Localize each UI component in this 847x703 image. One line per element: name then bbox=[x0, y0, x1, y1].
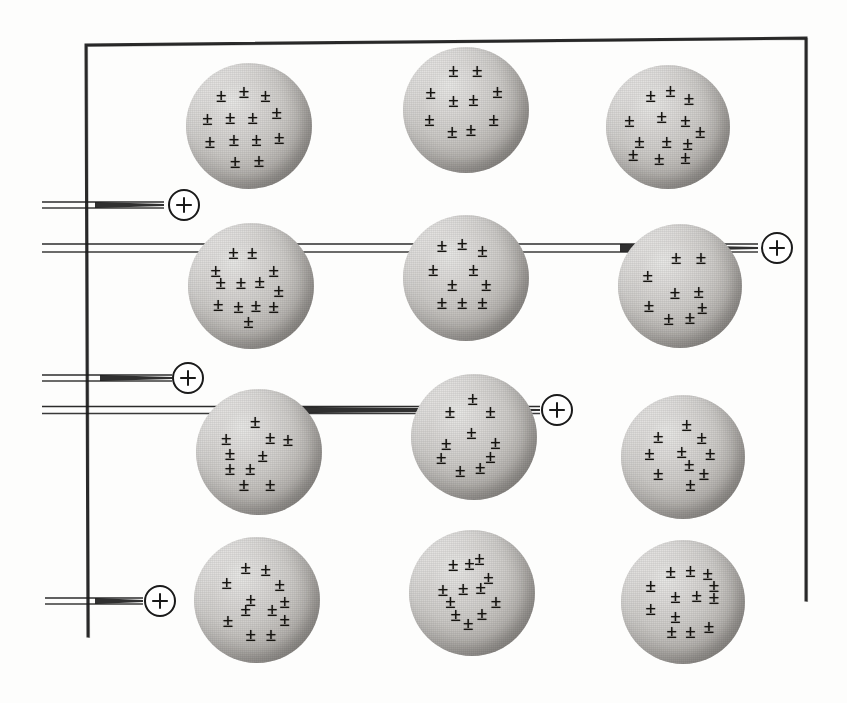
charge-symbol: ± bbox=[665, 562, 675, 581]
alpha-particle-marker: + bbox=[145, 586, 175, 616]
charge-symbol: ± bbox=[243, 312, 253, 331]
charge-symbol: ± bbox=[653, 464, 663, 483]
charge-symbol: ± bbox=[685, 560, 695, 579]
atom-sphere: ±±±±±±±±±±±±± bbox=[606, 65, 730, 189]
charge-symbol: ± bbox=[468, 388, 478, 407]
charge-symbol: ± bbox=[468, 260, 478, 279]
charge-symbol: ± bbox=[654, 149, 664, 168]
charge-symbol: ± bbox=[474, 548, 484, 567]
atom-sphere: ±±±±±±±±±± bbox=[411, 374, 537, 500]
charge-symbol: ± bbox=[225, 108, 235, 127]
charge-symbol: ± bbox=[268, 260, 278, 279]
charge-symbol: ± bbox=[477, 292, 487, 311]
alpha-particle-marker: + bbox=[762, 233, 792, 263]
charge-symbol: ± bbox=[685, 308, 695, 327]
charge-symbol: ± bbox=[457, 233, 467, 252]
charge-symbol: ± bbox=[229, 129, 239, 148]
charge-symbol: ± bbox=[428, 260, 438, 279]
charge-symbol: ± bbox=[448, 555, 458, 574]
charge-symbol: ± bbox=[667, 621, 677, 640]
charge-symbol: ± bbox=[260, 85, 270, 104]
charge-symbol: ± bbox=[245, 625, 255, 644]
charge-symbol: ± bbox=[705, 444, 715, 463]
charge-symbol: ± bbox=[447, 275, 457, 294]
charge-symbol: ± bbox=[254, 151, 264, 170]
charge-symbol: ± bbox=[475, 458, 485, 477]
figure-root: ±±±±±±±±±±±±±±±±±±±±±±±±±±±±±±±±±±±±±±±±… bbox=[0, 0, 847, 703]
atom-sphere: ±±±±±±±±±±±± bbox=[194, 537, 320, 663]
alpha-particle-track-5 bbox=[45, 598, 143, 604]
charge-symbol: ± bbox=[437, 292, 447, 311]
charge-symbol: ± bbox=[455, 460, 465, 479]
charge-symbol: ± bbox=[464, 553, 474, 572]
charge-symbol: ± bbox=[624, 110, 634, 129]
charge-symbol: ± bbox=[240, 558, 250, 577]
charge-symbol: ± bbox=[704, 616, 714, 635]
charge-symbol: ± bbox=[485, 401, 495, 420]
charge-symbol: ± bbox=[697, 298, 707, 317]
charge-symbol: ± bbox=[445, 401, 455, 420]
charge-symbol: ± bbox=[450, 605, 460, 624]
charge-symbol: ± bbox=[458, 578, 468, 597]
charge-symbol: ± bbox=[205, 132, 215, 151]
charge-symbol: ± bbox=[272, 103, 282, 122]
charge-symbol: ± bbox=[280, 609, 290, 628]
charge-symbol: ± bbox=[489, 109, 499, 128]
charge-symbol: ± bbox=[682, 414, 692, 433]
charge-symbol: ± bbox=[468, 89, 478, 108]
charge-symbol: ± bbox=[255, 271, 265, 290]
charge-symbol: ± bbox=[680, 147, 690, 166]
charge-symbol: ± bbox=[261, 559, 271, 578]
charge-symbol: ± bbox=[628, 145, 638, 164]
charge-symbol: ± bbox=[664, 309, 674, 328]
charge-symbol: ± bbox=[266, 625, 276, 644]
charge-symbol: ± bbox=[437, 236, 447, 255]
charge-symbol: ± bbox=[283, 430, 293, 449]
charge-symbol: ± bbox=[684, 455, 694, 474]
charge-symbol: ± bbox=[223, 611, 233, 630]
halftone-texture bbox=[403, 47, 529, 173]
charge-symbol: ± bbox=[233, 297, 243, 316]
charge-symbol: ± bbox=[685, 475, 695, 494]
charge-symbol: ± bbox=[653, 426, 663, 445]
charge-symbol: ± bbox=[671, 248, 681, 267]
charge-symbol: ± bbox=[476, 577, 486, 596]
charge-symbol: ± bbox=[230, 152, 240, 171]
charge-symbol: ± bbox=[424, 109, 434, 128]
charge-symbol: ± bbox=[699, 464, 709, 483]
charge-symbol: ± bbox=[267, 599, 277, 618]
alpha-particle-marker: + bbox=[169, 190, 199, 220]
alpha-particle-marker: + bbox=[542, 395, 572, 425]
charge-symbol: ± bbox=[251, 129, 261, 148]
atom-sphere: ±±±±±±±±±± bbox=[196, 389, 322, 515]
charge-symbol: ± bbox=[202, 109, 212, 128]
charge-symbol: ± bbox=[448, 60, 458, 79]
charge-symbol: ± bbox=[491, 591, 501, 610]
charge-symbol: ± bbox=[670, 586, 680, 605]
charge-symbol: ± bbox=[466, 422, 476, 441]
charge-symbol: ± bbox=[258, 445, 268, 464]
charge-symbol: ± bbox=[665, 80, 675, 99]
charge-symbol: ± bbox=[248, 108, 258, 127]
charge-symbol: ± bbox=[239, 474, 249, 493]
alpha-particle-track-3 bbox=[42, 375, 172, 381]
charge-symbol: ± bbox=[477, 241, 487, 260]
charge-symbol: ± bbox=[466, 119, 476, 138]
atom-sphere: ±±±±±±±±±± bbox=[403, 215, 529, 341]
halftone-texture bbox=[194, 537, 320, 663]
charge-symbol: ± bbox=[250, 411, 260, 430]
charge-symbol: ± bbox=[646, 575, 656, 594]
atom-sphere: ±±±±±±±±± bbox=[618, 224, 742, 348]
atom-sphere: ±±±±±±±±±±±±± bbox=[188, 223, 314, 349]
charge-symbol: ± bbox=[448, 90, 458, 109]
charge-symbol: ± bbox=[240, 599, 250, 618]
charge-symbol: ± bbox=[644, 444, 654, 463]
atom-sphere: ±±±±±±±±±±±± bbox=[409, 530, 535, 656]
charge-symbol: ± bbox=[222, 573, 232, 592]
charge-symbol: ± bbox=[213, 294, 223, 313]
alpha-particle-track-1 bbox=[42, 202, 164, 208]
charge-symbol: ± bbox=[695, 121, 705, 140]
charge-symbol: ± bbox=[646, 599, 656, 618]
atom-sphere: ±±±±±±±±±±±±± bbox=[186, 63, 312, 189]
atom-sphere: ±±±±±±±±±±±±± bbox=[621, 540, 745, 664]
